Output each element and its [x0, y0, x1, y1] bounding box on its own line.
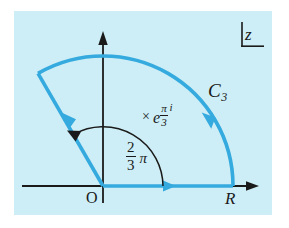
- radius-label: R: [225, 190, 235, 207]
- exp-imaginary-unit: i: [170, 102, 173, 113]
- contour-label-letter: C: [208, 80, 221, 101]
- exp-exponent-group: π3i: [160, 103, 173, 128]
- angle-indicator-group: [67, 127, 163, 186]
- exp-fraction: π3: [160, 103, 168, 128]
- exp-fraction-denominator: 3: [160, 117, 168, 128]
- contour-arrow-outgoing: [163, 181, 176, 192]
- origin-label: O: [86, 190, 98, 206]
- contour-label-c3: C3: [208, 81, 227, 103]
- angle-fraction-numerator: 2: [126, 140, 136, 155]
- angle-label: 23π: [126, 140, 147, 173]
- exp-fraction-numerator: π: [160, 103, 168, 114]
- contour-radial-return: [38, 73, 103, 186]
- axes-group: [22, 31, 259, 203]
- contour-label-subscript: 3: [221, 90, 227, 104]
- figure-root: z C3 O R ×eπ3i 23π: [0, 0, 289, 228]
- angle-fraction-denominator: 3: [126, 158, 136, 173]
- angle-pi-symbol: π: [140, 151, 148, 166]
- exp-base-letter: e: [153, 110, 160, 126]
- x-axis-arrowhead: [246, 181, 259, 190]
- y-axis-arrowhead: [98, 31, 107, 45]
- point-cross-marker: ×: [142, 110, 150, 124]
- plane-label-z: z: [245, 26, 252, 43]
- marked-point-label: ×eπ3i: [142, 106, 173, 131]
- angle-fraction: 23: [126, 140, 136, 173]
- angle-arc-arrowhead: [67, 130, 81, 141]
